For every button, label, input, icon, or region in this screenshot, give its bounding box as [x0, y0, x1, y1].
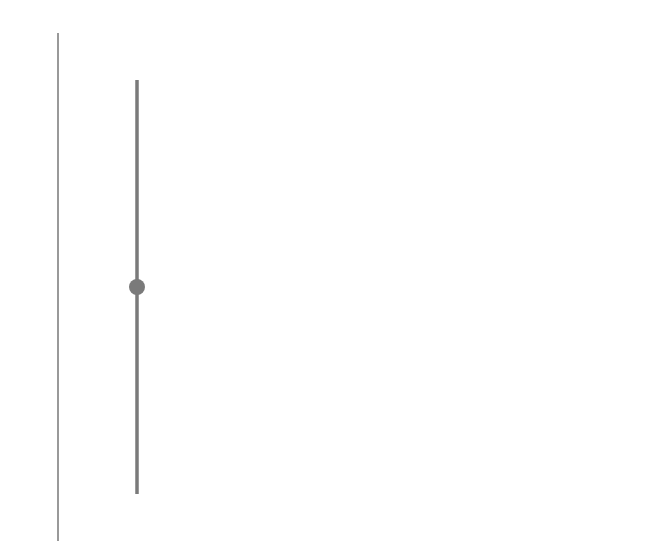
cat-eye-figure [0, 0, 651, 558]
mean-point [129, 279, 145, 295]
ci-bar [129, 80, 145, 494]
